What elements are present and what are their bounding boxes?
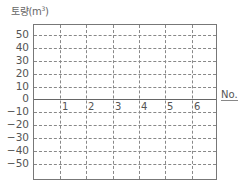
gridline-minus50 bbox=[34, 164, 216, 165]
gridline-x6 bbox=[192, 25, 193, 179]
x-axis-label-text: No. bbox=[221, 89, 238, 101]
gridline-30 bbox=[34, 61, 216, 62]
x-tick-label: 5 bbox=[167, 101, 173, 113]
x-axis-label: No. bbox=[221, 89, 238, 100]
gridline-50 bbox=[34, 35, 216, 36]
x-tick-label: 1 bbox=[62, 101, 68, 113]
x-tick-label: 6 bbox=[194, 101, 200, 113]
y-tick-label: 20 bbox=[16, 67, 29, 79]
x-tick-label: 4 bbox=[141, 101, 147, 113]
gridline-x1 bbox=[60, 25, 61, 179]
gridline-x2 bbox=[86, 25, 87, 179]
y-tick-label: 0 bbox=[22, 92, 29, 104]
y-tick-label: −30 bbox=[7, 131, 29, 143]
chart-title: 토량(m3) bbox=[11, 3, 49, 18]
gridline-minus20 bbox=[34, 125, 216, 126]
plot-area bbox=[33, 24, 217, 180]
x-tick-label: 2 bbox=[88, 101, 94, 113]
zero-axis-line bbox=[34, 99, 216, 100]
gridline-10 bbox=[34, 87, 216, 88]
y-tick-label: −50 bbox=[7, 157, 29, 169]
y-tick-label: 50 bbox=[16, 28, 29, 40]
gridline-minus40 bbox=[34, 151, 216, 152]
y-tick-label: 10 bbox=[16, 80, 29, 92]
x-tick-label: 3 bbox=[115, 101, 121, 113]
y-tick-label: 30 bbox=[16, 54, 29, 66]
title-close: ) bbox=[45, 6, 49, 17]
gridline-x5 bbox=[165, 25, 166, 179]
gridline-x4 bbox=[139, 25, 140, 179]
y-tick-label: −10 bbox=[7, 105, 29, 117]
y-tick-label: −40 bbox=[7, 144, 29, 156]
gridline-20 bbox=[34, 74, 216, 75]
gridline-x3 bbox=[113, 25, 114, 179]
gridline-40 bbox=[34, 48, 216, 49]
gridline-minus30 bbox=[34, 138, 216, 139]
y-tick-label: 40 bbox=[16, 41, 29, 53]
title-text: 토량(m bbox=[11, 6, 41, 17]
y-tick-label: −20 bbox=[7, 118, 29, 130]
